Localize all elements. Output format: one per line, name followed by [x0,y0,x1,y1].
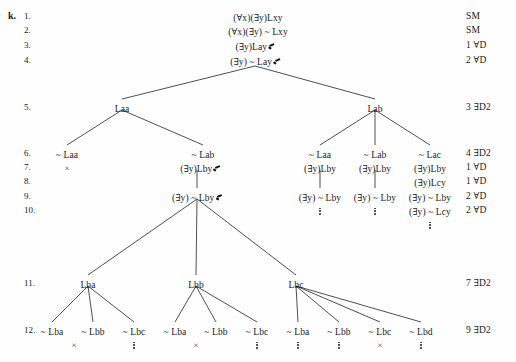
justification: 1 ∀D [466,41,487,51]
node-formula: ~ Lac [419,150,441,160]
open-branch-ellipsis-icon [133,340,135,349]
branch-line [296,286,380,322]
branch-line [375,110,430,145]
tree-node: (∃y) ~ Lby [354,194,396,204]
open-branch-ellipsis-icon [319,206,321,215]
justification: 2 ∀D [466,206,487,216]
line-number: 8. [24,177,31,186]
branch-line [196,199,197,275]
branch-line [196,286,257,322]
line-number: 1. [24,12,31,21]
tree-node: ~ Lbd [409,328,432,338]
truth-tree-figure: k. 1.2.3.4.5.6.7.8.9.10.11.12. SMSM1 ∀D2… [0,0,516,362]
line-number: 3. [24,41,31,50]
branch-line [296,286,339,322]
node-formula: (∀x)(∃y) ~ Lxy [228,27,288,37]
node-formula: (∃y)Lby [414,164,446,174]
line-number: 12. [24,326,36,335]
line-number: 6. [24,149,31,158]
branch-line [197,199,296,275]
branch-line [52,286,88,322]
node-formula: ~ Laa [309,150,331,160]
branch-line [175,286,196,322]
justification: 1 ∀D [466,163,487,173]
justification: 2 ∀D [466,192,487,202]
node-formula: (∃y) ~ Lby [172,193,214,203]
tree-node: (∃y) ~ Lcy [409,208,451,218]
node-formula: (∃y) ~ Lcy [409,207,451,217]
tree-node: ~ Lbc [246,328,269,338]
node-formula: ~ Laa [56,150,78,160]
tree-node: ~ Lbb [204,328,227,338]
node-formula: (∃y) ~ Lby [354,193,396,203]
open-branch-ellipsis-icon [420,340,422,349]
open-branch-ellipsis-icon [374,206,376,215]
justification: 3 ∃D2 [466,103,491,113]
justification: 2 ∀D [466,56,487,66]
closed-branch-icon: × [71,341,76,350]
open-branch-ellipsis-icon [429,220,431,229]
node-formula: ~ Lba [287,327,310,337]
tree-node: ~ Lbc [369,328,392,338]
node-formula: ~ Lbc [123,327,146,337]
line-number: 10. [24,206,36,215]
node-formula: ~ Lbb [327,327,350,337]
tree-node: ~ Lba [287,328,310,338]
line-number: 4. [24,56,31,65]
tree-node: (∃y)Lby [359,165,391,175]
tree-node: ~ Lab [364,151,387,161]
tree-node: ~ Laa [309,151,331,161]
node-formula: (∃y)Lby [180,164,212,174]
tree-node: (∃y)Lay [235,43,274,53]
node-formula: ~ Lab [364,150,387,160]
branch-line [320,110,375,145]
tree-node: (∃y)Lcy [414,179,446,189]
node-formula: Lab [367,104,382,114]
justification: SM [466,26,480,36]
node-formula: ~ Lbb [81,327,104,337]
branch-line [122,66,255,99]
justification: SM [466,12,480,22]
node-formula: (∃y) ~ Lby [409,193,451,203]
tree-node: ~ Lab [192,151,215,161]
tree-node: (∃y)Lby [180,165,220,175]
branch-line [67,110,122,145]
tree-node: (∃y) ~ Lby [299,194,341,204]
tree-node: (∃y)Lby [304,165,336,175]
node-formula: Laa [115,104,130,114]
tree-node: Lba [80,281,95,291]
node-formula: (∃y)Lby [359,164,391,174]
closed-branch-icon: × [377,341,382,350]
branch-line [196,286,216,322]
closed-branch-icon: × [193,341,198,350]
tree-node: ~ Lbb [81,328,104,338]
node-formula: (∃y)Lby [304,164,336,174]
check-icon [213,166,220,173]
tree-node: Lbc [288,281,303,291]
exercise-label: k. [8,11,16,21]
tree-node: ~ Lbb [327,328,350,338]
tree-node: ~ Laa [56,151,78,161]
line-number: 5. [24,103,31,112]
node-formula: (∃y) ~ Lby [299,193,341,203]
line-number: 11. [24,279,35,288]
tree-node: (∃y) ~ Lby [409,194,451,204]
tree-node: ~ Lba [164,328,187,338]
branch-line [296,286,421,322]
node-formula: (∃y)Lcy [414,178,446,188]
branch-line [88,199,197,275]
tree-node: (∀x)(∃y) ~ Lxy [228,28,288,38]
node-formula: ~ Lab [192,150,215,160]
check-icon [268,44,275,51]
open-branch-ellipsis-icon [338,340,340,349]
tree-node: (∃y) ~ Lby [172,194,222,204]
node-formula: (∃y)Lay [235,42,267,52]
node-formula: (∃y) ~ Lay [230,57,272,67]
tree-node: (∃y)Lby [414,165,446,175]
branch-line [88,286,134,322]
branch-line [88,286,93,322]
open-branch-ellipsis-icon [256,340,258,349]
justification: 4 ∃D2 [466,149,491,159]
node-formula: ~ Lbb [204,327,227,337]
line-number: 9. [24,192,31,201]
